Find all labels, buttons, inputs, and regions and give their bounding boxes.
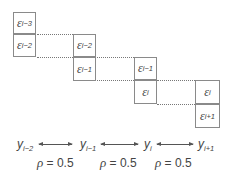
subscript: i−2 [22,41,32,50]
dotted-connector [157,80,195,81]
y-label: yi−1 [80,137,96,153]
epsilon-cell: εi−3 [13,12,36,34]
epsilon-cell: εi [134,80,157,104]
double-arrow-icon [39,144,72,145]
correlation-label: ρ = 0.5 [100,155,137,171]
epsilon-cell: εi [195,80,220,104]
y-label: yi [144,137,152,153]
correlation-label: ρ = 0.5 [37,155,74,171]
subscript: i [150,144,152,153]
epsilon-cell: εi−2 [13,34,36,57]
subscript: i−1 [143,64,153,73]
y-label: yi+1 [198,137,214,153]
subscript: i+1 [204,144,214,153]
subscript: i−1 [86,144,96,153]
correlation-value: = 0.5 [161,156,191,170]
subscript: i [147,88,149,97]
correlation-value: = 0.5 [106,156,136,170]
correlation-value: = 0.5 [43,156,73,170]
subscript: i−1 [82,65,92,74]
epsilon-cell: εi−2 [73,34,96,57]
y-label: yi−2 [17,137,33,153]
subscript: i [209,88,211,97]
epsilon-cell: εi+1 [195,104,220,128]
subscript: i−3 [22,19,32,28]
subscript: i−2 [23,144,33,153]
epsilon-cell: εi−1 [73,57,96,81]
subscript: i−2 [82,41,92,50]
dotted-connector [157,104,195,105]
epsilon-cell: εi−1 [134,57,157,80]
double-arrow-icon [101,144,138,145]
dotted-connector [97,57,134,58]
double-arrow-icon [157,144,193,145]
dotted-connector [97,80,134,81]
dotted-connector [37,57,73,58]
dotted-connector [37,34,73,35]
correlation-label: ρ = 0.5 [155,155,192,171]
subscript: i+1 [205,112,215,121]
